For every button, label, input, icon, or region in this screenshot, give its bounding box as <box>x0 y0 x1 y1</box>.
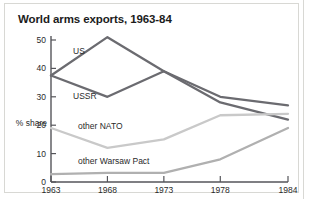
panel-divider <box>303 0 304 199</box>
y-tick-label: 10 <box>37 149 47 159</box>
series-label-other-warsaw-pact: other Warsaw Pact <box>78 156 150 166</box>
y-tick-label: 30 <box>37 92 47 102</box>
x-tick-label: 1963 <box>42 185 61 194</box>
y-axis-ticks: 01020304050 <box>37 35 56 187</box>
x-tick-label: 1968 <box>98 185 117 194</box>
y-tick-label: 40 <box>37 63 47 73</box>
series-label-other-nato: other NATO <box>78 121 123 131</box>
data-series-group <box>51 37 288 174</box>
x-tick-label: 1984 <box>279 185 298 194</box>
chart-card: World arms exports, 1963-84 01020304050 … <box>4 3 299 193</box>
y-axis: 01020304050 <box>37 35 56 187</box>
y-axis-label: % share <box>16 118 47 128</box>
x-axis-ticks: 19631968197319781984 <box>42 176 298 194</box>
series-line-other-warsaw-pact <box>51 128 288 174</box>
series-label-us: US <box>73 46 85 56</box>
x-tick-label: 1973 <box>154 185 173 194</box>
y-tick-label: 50 <box>37 35 47 45</box>
series-label-ussr: USSR <box>73 91 97 101</box>
line-chart-plot: 01020304050 19631968197319781984 % share… <box>5 4 300 194</box>
x-axis: 19631968197319781984 <box>42 176 298 194</box>
x-tick-label: 1978 <box>211 185 230 194</box>
